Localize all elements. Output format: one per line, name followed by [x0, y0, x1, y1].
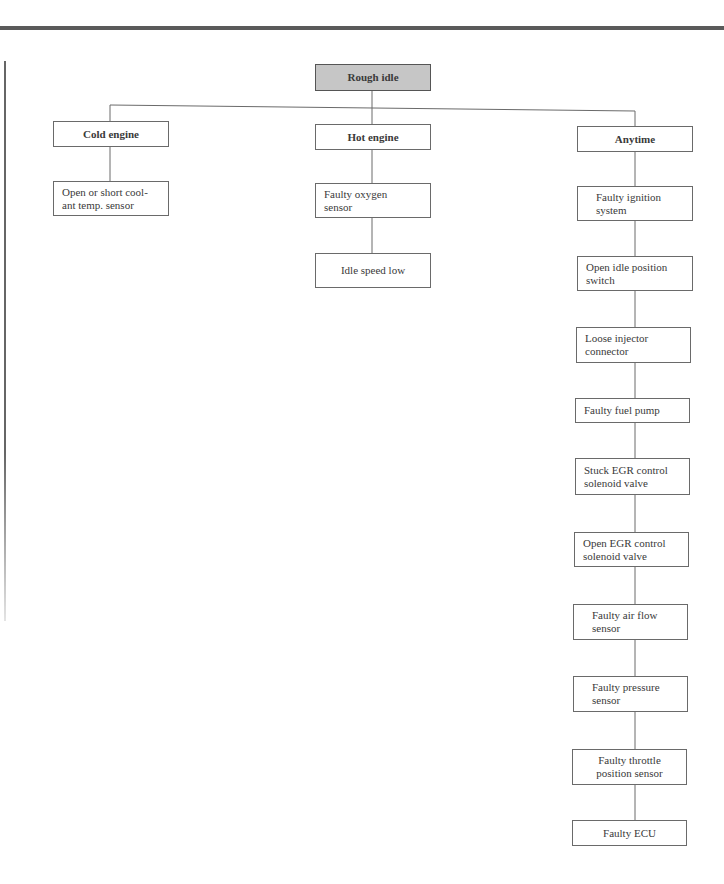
cause-label: Faulty oxygen sensor	[324, 188, 387, 214]
cause-box: Idle speed low	[315, 253, 431, 288]
branch-header-label: Hot engine	[347, 131, 398, 144]
cause-box: Open EGR control solenoid valve	[574, 532, 689, 567]
cause-label: Open or short cool- ant temp. sensor	[62, 186, 148, 212]
branch-header-hot-engine: Hot engine	[315, 124, 431, 150]
cause-box: Stuck EGR control solenoid valve	[575, 458, 690, 495]
root-node-label: Rough idle	[347, 71, 398, 84]
cause-label: Faulty fuel pump	[584, 404, 660, 417]
cause-box: Loose injector connector	[576, 327, 691, 363]
cause-label: Open idle position switch	[586, 261, 667, 287]
root-node-rough-idle: Rough idle	[315, 64, 431, 91]
branch-header-label: Anytime	[615, 133, 655, 146]
cause-label: Open EGR control solenoid valve	[583, 537, 665, 563]
cause-label: Faulty throttle position sensor	[596, 754, 662, 780]
cause-label: Loose injector connector	[585, 332, 648, 358]
cause-box: Faulty oxygen sensor	[315, 183, 431, 218]
cause-label: Idle speed low	[341, 264, 405, 277]
cause-label: Faulty ECU	[603, 827, 656, 840]
branch-header-anytime: Anytime	[577, 126, 693, 152]
cause-box: Faulty fuel pump	[575, 398, 690, 423]
cause-box: Faulty throttle position sensor	[572, 749, 687, 785]
cause-box: Faulty ignition system	[577, 186, 693, 221]
cause-box: Open or short cool- ant temp. sensor	[53, 181, 169, 216]
cause-label: Faulty air flow sensor	[592, 609, 657, 635]
cause-box: Faulty ECU	[572, 820, 687, 846]
cause-box: Faulty air flow sensor	[573, 604, 688, 640]
cause-label: Faulty ignition system	[596, 191, 661, 217]
cause-box: Faulty pressure sensor	[573, 676, 688, 712]
branch-header-cold-engine: Cold engine	[53, 121, 169, 147]
cause-box: Open idle position switch	[577, 256, 693, 291]
branch-header-label: Cold engine	[83, 128, 139, 141]
cause-label: Faulty pressure sensor	[592, 681, 660, 707]
cause-label: Stuck EGR control solenoid valve	[584, 464, 668, 490]
